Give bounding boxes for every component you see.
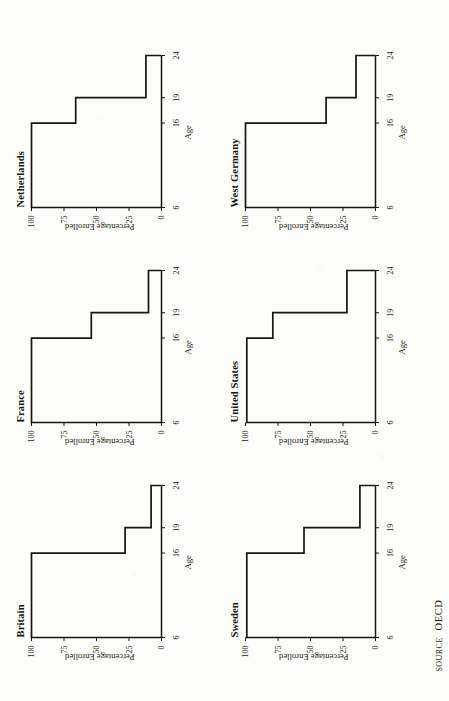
panel-title: Britain bbox=[14, 604, 25, 637]
x-tick-label: 19 bbox=[385, 93, 394, 101]
plot-area: 02550751006161924 bbox=[245, 270, 375, 422]
panel-title: Sweden bbox=[228, 602, 239, 637]
chart-panel: West Germany02550751006161924Percentage … bbox=[228, 38, 424, 243]
plot-area: 02550751006161924 bbox=[31, 270, 161, 422]
step-line bbox=[245, 55, 375, 207]
step-chart-svg bbox=[31, 55, 161, 207]
chart-panel: Sweden02550751006161924Percentage Enroll… bbox=[228, 468, 424, 673]
y-axis-title: Percentage Enrolled bbox=[65, 221, 134, 231]
step-line bbox=[31, 485, 161, 637]
x-axis-title: Age bbox=[396, 555, 406, 569]
plot-area: 02550751006161924 bbox=[31, 485, 161, 637]
x-tick-label: 6 bbox=[171, 205, 180, 209]
x-tick-label: 16 bbox=[171, 119, 180, 127]
x-tick-label: 19 bbox=[171, 523, 180, 531]
scanned-figure-page: Britain02550751006161924Percentage Enrol… bbox=[0, 0, 449, 701]
panel-title: Netherlands bbox=[14, 151, 25, 207]
y-tick-label: 0 bbox=[370, 430, 379, 434]
x-tick-label: 16 bbox=[171, 549, 180, 557]
chart-panel: Britain02550751006161924Percentage Enrol… bbox=[14, 468, 210, 673]
y-tick-label: 0 bbox=[156, 430, 165, 434]
x-tick-label: 19 bbox=[171, 93, 180, 101]
x-tick-label: 6 bbox=[385, 205, 394, 209]
x-tick-label: 24 bbox=[385, 51, 394, 59]
step-line bbox=[246, 485, 375, 637]
y-tick-label: 100 bbox=[240, 215, 249, 227]
x-tick-label: 6 bbox=[385, 635, 394, 639]
y-tick-label: 100 bbox=[26, 215, 35, 227]
panel-title: United States bbox=[228, 360, 239, 422]
step-line bbox=[246, 270, 375, 422]
x-tick-label: 19 bbox=[385, 523, 394, 531]
x-axis-title: Age bbox=[182, 125, 192, 139]
x-tick-label: 16 bbox=[385, 334, 394, 342]
x-tick-label: 6 bbox=[385, 420, 394, 424]
plot-area: 02550751006161924 bbox=[245, 485, 375, 637]
x-tick-label: 24 bbox=[171, 266, 180, 274]
y-tick-label: 0 bbox=[156, 215, 165, 219]
step-line bbox=[31, 270, 161, 422]
plot-area: 02550751006161924 bbox=[31, 55, 161, 207]
y-tick-label: 100 bbox=[26, 430, 35, 442]
y-tick-label: 100 bbox=[26, 645, 35, 657]
x-tick-label: 24 bbox=[171, 51, 180, 59]
x-axis-title: Age bbox=[396, 125, 406, 139]
chart-panel: United States02550751006161924Percentage… bbox=[228, 253, 424, 458]
x-axis-title: Age bbox=[182, 555, 192, 569]
step-chart-svg bbox=[245, 485, 375, 637]
step-line bbox=[31, 55, 161, 207]
y-axis-title: Percentage Enrolled bbox=[65, 436, 134, 446]
step-chart-svg bbox=[245, 55, 375, 207]
step-chart-svg bbox=[31, 485, 161, 637]
panel-title: West Germany bbox=[228, 138, 239, 207]
x-tick-label: 24 bbox=[385, 266, 394, 274]
x-axis-title: Age bbox=[396, 340, 406, 354]
x-tick-label: 16 bbox=[385, 549, 394, 557]
x-tick-label: 16 bbox=[385, 119, 394, 127]
y-tick-label: 0 bbox=[156, 645, 165, 649]
x-tick-label: 19 bbox=[171, 308, 180, 316]
x-tick-label: 16 bbox=[171, 334, 180, 342]
chart-panel: Netherlands02550751006161924Percentage E… bbox=[14, 38, 210, 243]
x-axis-title: Age bbox=[182, 340, 192, 354]
y-tick-label: 100 bbox=[240, 430, 249, 442]
step-chart-svg bbox=[245, 270, 375, 422]
source-label: SOURCE bbox=[434, 637, 443, 671]
x-tick-label: 6 bbox=[171, 420, 180, 424]
step-chart-svg bbox=[31, 270, 161, 422]
y-axis-title: Percentage Enrolled bbox=[279, 436, 348, 446]
panel-title: France bbox=[14, 390, 25, 422]
chart-panel: France02550751006161924Percentage Enroll… bbox=[14, 253, 210, 458]
x-tick-label: 19 bbox=[385, 308, 394, 316]
x-tick-label: 6 bbox=[171, 635, 180, 639]
y-tick-label: 100 bbox=[240, 645, 249, 657]
y-tick-label: 0 bbox=[370, 215, 379, 219]
y-axis-title: Percentage Enrolled bbox=[65, 651, 134, 661]
source-note: SOURCEOECD bbox=[432, 599, 443, 671]
x-tick-label: 24 bbox=[171, 481, 180, 489]
y-tick-label: 0 bbox=[370, 645, 379, 649]
y-axis-title: Percentage Enrolled bbox=[279, 651, 348, 661]
plot-area: 02550751006161924 bbox=[245, 55, 375, 207]
x-tick-label: 24 bbox=[385, 481, 394, 489]
y-axis-title: Percentage Enrolled bbox=[279, 221, 348, 231]
source-value: OECD bbox=[432, 599, 443, 630]
panel-grid: Britain02550751006161924Percentage Enrol… bbox=[0, 0, 449, 701]
